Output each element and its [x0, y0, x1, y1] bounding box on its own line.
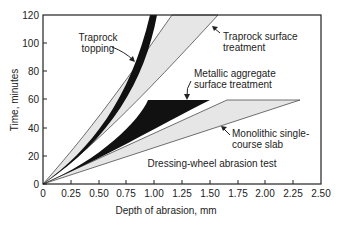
- svg-text:2.50: 2.50: [311, 188, 331, 199]
- svg-text:40: 40: [28, 123, 40, 134]
- test-annotation: Dressing-wheel abrasion test: [148, 158, 277, 169]
- svg-text:20: 20: [28, 151, 40, 162]
- svg-text:1.75: 1.75: [228, 188, 248, 199]
- svg-text:0.75: 0.75: [116, 188, 136, 199]
- svg-text:60: 60: [28, 94, 40, 105]
- svg-text:1.25: 1.25: [172, 188, 192, 199]
- svg-text:0.50: 0.50: [89, 188, 109, 199]
- svg-text:0: 0: [40, 188, 46, 199]
- label-monolithic-slab: Monolithic single-course slab: [232, 128, 309, 150]
- svg-text:1.50: 1.50: [200, 188, 220, 199]
- y-axis-label: Time, minutes: [9, 69, 20, 131]
- svg-text:80: 80: [28, 66, 40, 77]
- svg-text:0.25: 0.25: [61, 188, 81, 199]
- x-axis-label: Depth of abrasion, mm: [115, 205, 216, 216]
- arrow-traprock-topping-icon: [112, 47, 133, 60]
- svg-text:100: 100: [22, 38, 39, 49]
- label-traprock-topping: Traprocktopping: [78, 32, 118, 54]
- svg-text:1.00: 1.00: [144, 188, 164, 199]
- label-traprock-surface-treatment: Traprock surfacetreatment: [223, 31, 298, 53]
- band-metallic-aggregate: [43, 100, 210, 184]
- abrasion-chart: 0 20 40 60 80 100 120 Time, minutes 0 0.…: [0, 0, 341, 226]
- label-metallic-aggregate: Metallic aggregatesurface treatment: [194, 68, 276, 90]
- svg-text:0: 0: [33, 179, 39, 190]
- x-axis: 0 0.25 0.50 0.75 1.00 1.25 1.50 1.75 2.0…: [40, 180, 331, 199]
- svg-text:2.00: 2.00: [255, 188, 275, 199]
- svg-text:120: 120: [22, 10, 39, 21]
- svg-text:2.25: 2.25: [283, 188, 303, 199]
